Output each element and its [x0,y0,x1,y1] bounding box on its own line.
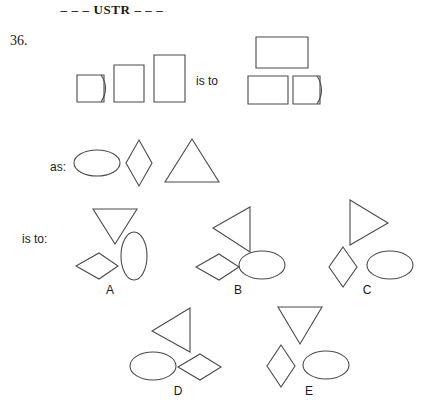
connector-is-to: is to [196,74,218,88]
option-d-shape-diamond-horizontal [178,354,221,380]
connector-is-to-colon: is to: [22,232,47,246]
option-label-a[interactable]: A [100,283,120,297]
page-header: – – – USTR – – – [0,2,424,22]
option-b-group[interactable] [196,207,285,280]
figures-canvas [0,0,424,416]
analogy-shape-triangle-up [165,139,219,182]
analogy-row-group [74,139,219,186]
analogy-shape-ellipse-horizontal [74,150,120,176]
option-a-shape-ellipse-vertical [121,232,147,280]
header-title: – – – USTR – – – [0,2,224,18]
option-label-c[interactable]: C [357,283,377,297]
option-c-shape-diamond-vertical [329,247,357,287]
option-label-d[interactable]: D [168,384,188,398]
option-a-shape-diamond-horizontal [76,253,118,279]
stem-shape-rect-tall [154,55,185,102]
stem-shape-square-curved-right-2 [293,76,322,104]
option-e-group[interactable] [267,307,349,387]
option-label-e[interactable]: E [299,384,319,398]
option-b-shape-ellipse-horizontal [239,251,285,279]
connector-as: as: [50,160,66,174]
figure-analogy-page: – – – USTR – – – 36. is to as: is to: A … [0,0,424,416]
option-b-shape-diamond-horizontal [196,254,239,280]
option-a-group[interactable] [76,209,147,280]
analogy-shape-diamond-vertical [126,140,152,186]
option-label-b[interactable]: B [228,283,248,297]
option-d-shape-triangle-left [152,308,190,352]
option-d-shape-ellipse-horizontal [130,352,176,380]
option-e-shape-triangle-down [278,307,322,344]
stem-shape-rect-wide-top [256,37,308,68]
option-b-shape-triangle-left [213,207,250,252]
option-c-group[interactable] [329,200,413,287]
option-a-shape-triangle-down [93,209,137,244]
stem-shape-rect-medium [114,65,144,102]
option-c-shape-ellipse-horizontal [367,251,413,279]
option-e-shape-diamond-vertical [267,345,295,387]
option-e-shape-ellipse-horizontal [303,351,349,379]
option-c-shape-triangle-right [350,200,388,245]
stem-right-group [248,37,322,104]
stem-left-group [77,55,185,102]
item-number: 36. [10,33,28,49]
stem-shape-rect-lower-left [248,76,288,104]
option-d-group[interactable] [130,308,221,380]
stem-shape-square-curved-right [77,75,106,102]
